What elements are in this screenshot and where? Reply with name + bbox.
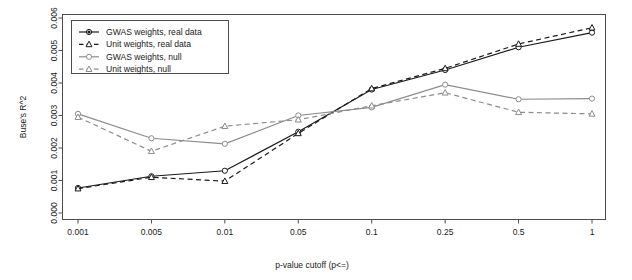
legend-label: GWAS weights, null <box>106 52 182 62</box>
legend-label: Unit weights, null <box>106 64 171 74</box>
y-tick-label: 0.004 <box>49 72 59 94</box>
chart-legend: GWAS weights, real dataUnit weights, rea… <box>72 21 229 75</box>
data-point-marker <box>442 90 448 96</box>
y-tick-label: 0.006 <box>49 7 59 29</box>
line-chart: 0.0000.0010.0020.0030.0040.0050.006 0.00… <box>0 0 632 280</box>
x-axis-title: p-value cutoff (p<=) <box>275 260 349 270</box>
legend-label: GWAS weights, real data <box>106 27 202 37</box>
x-tick-label: 0.05 <box>290 227 307 237</box>
y-tick-label: 0.005 <box>49 40 59 62</box>
legend-label: Unit weights, real data <box>106 39 191 49</box>
data-point-marker <box>222 168 227 173</box>
series-line <box>78 93 592 152</box>
data-point-marker <box>516 97 521 102</box>
x-axis: 0.0010.0050.010.050.10.250.51 <box>67 220 594 237</box>
x-tick-label: 0.001 <box>67 227 89 237</box>
series-line <box>78 85 592 144</box>
x-tick-label: 0.5 <box>513 227 525 237</box>
x-tick-label: 1 <box>590 227 595 237</box>
x-tick-label: 0.01 <box>217 227 234 237</box>
y-tick-label: 0.000 <box>49 202 59 224</box>
y-axis-title: Buse's R^2 <box>18 95 28 138</box>
chart-figure: 0.0000.0010.0020.0030.0040.0050.006 0.00… <box>0 0 632 280</box>
data-point-marker <box>443 82 448 87</box>
y-tick-label: 0.001 <box>49 170 59 192</box>
data-point-marker <box>86 54 91 59</box>
data-point-marker <box>589 96 594 101</box>
data-point-marker <box>222 141 227 146</box>
x-tick-label: 0.005 <box>141 227 163 237</box>
legend-marker-fill <box>87 30 90 33</box>
x-tick-label: 0.1 <box>366 227 378 237</box>
y-tick-label: 0.003 <box>49 105 59 127</box>
data-point-marker <box>589 25 595 31</box>
data-point-marker <box>589 30 594 35</box>
y-tick-label: 0.002 <box>49 137 59 159</box>
data-point-marker <box>149 136 154 141</box>
y-axis: 0.0000.0010.0020.0030.0040.0050.006 <box>49 7 63 224</box>
x-tick-label: 0.25 <box>437 227 454 237</box>
data-point-marker <box>222 123 228 129</box>
